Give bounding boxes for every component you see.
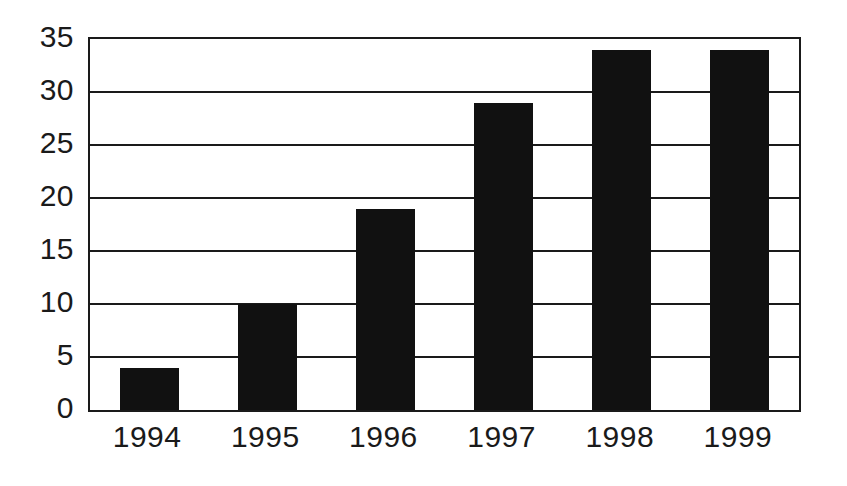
bar [592,50,651,410]
x-axis-tick-label: 1998 [585,420,654,454]
bar [356,209,415,410]
gridline [90,356,799,358]
bar [238,304,297,410]
gridline [90,144,799,146]
y-axis-tick-label: 35 [40,22,74,52]
gridline [90,250,799,252]
plot-area [88,37,801,412]
bar-chart: 05101520253035 199419951996199719981999 [0,0,847,486]
x-axis-tick-label: 1995 [231,420,300,454]
bar [120,368,179,410]
x-axis-tick-label: 1996 [349,420,418,454]
x-axis-tick-label: 1999 [704,420,773,454]
y-axis-tick-label: 30 [40,75,74,105]
y-axis-tick-label: 25 [40,128,74,158]
y-axis-tick-labels: 05101520253035 [18,0,74,486]
y-axis-tick-label: 15 [40,234,74,264]
y-axis-tick-label: 20 [40,181,74,211]
y-axis-tick-label: 10 [40,287,74,317]
x-axis-tick-label: 1994 [113,420,182,454]
bar [474,103,533,410]
x-axis-tick-labels: 199419951996199719981999 [88,420,801,480]
y-axis-tick-label: 0 [57,393,74,423]
gridline [90,197,799,199]
x-axis-tick-label: 1997 [467,420,536,454]
bar [710,50,769,410]
gridline [90,303,799,305]
gridline [90,91,799,93]
y-axis-tick-label: 5 [57,340,74,370]
